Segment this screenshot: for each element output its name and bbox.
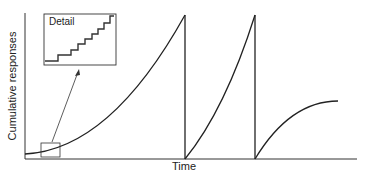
- curve-segment-2: [185, 15, 255, 159]
- curve-segment-3: [255, 101, 338, 159]
- arrowhead-icon: [75, 69, 80, 76]
- x-axis-label: Time: [172, 160, 196, 172]
- inset-label: Detail: [49, 16, 75, 27]
- y-axis-label: Cumulative responses: [6, 26, 18, 146]
- zoom-arrow: [52, 72, 78, 142]
- cumulative-record-diagram: Cumulative responses Time Detail: [0, 0, 370, 178]
